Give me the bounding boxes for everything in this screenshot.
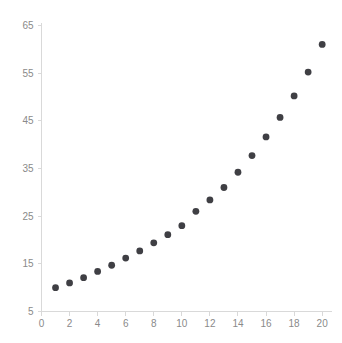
y-tick-label: 35 (22, 163, 34, 174)
x-tick-label: 12 (204, 318, 216, 329)
x-axis: 02468101214161820 (39, 312, 332, 329)
y-tick-label: 45 (22, 115, 34, 126)
data-point (178, 222, 185, 229)
x-tick-label: 6 (123, 318, 129, 329)
x-tick-label: 8 (151, 318, 157, 329)
y-tick-label: 55 (22, 68, 34, 79)
y-tick-label: 15 (22, 258, 34, 269)
x-tick-label: 0 (39, 318, 45, 329)
data-point (164, 231, 171, 238)
data-point (305, 69, 312, 76)
data-point (291, 93, 298, 100)
x-tick-label: 2 (67, 318, 73, 329)
y-tick-label: 65 (22, 20, 34, 31)
y-tick-label: 5 (28, 306, 34, 317)
chart-canvas: 5152535455565 02468101214161820 (0, 0, 342, 343)
y-tick-label: 25 (22, 211, 34, 222)
y-axis: 5152535455565 (22, 20, 41, 317)
data-series (52, 41, 325, 291)
x-tick-label: 4 (95, 318, 101, 329)
data-point (52, 284, 59, 291)
data-point (192, 208, 199, 215)
data-point (319, 41, 326, 48)
data-point (136, 248, 143, 255)
data-point (207, 197, 214, 204)
x-tick-label: 18 (289, 318, 301, 329)
x-tick-label: 16 (260, 318, 272, 329)
data-point (221, 184, 228, 191)
data-point (122, 255, 129, 262)
scatter-chart: 5152535455565 02468101214161820 (0, 0, 342, 343)
data-point (249, 152, 256, 159)
data-point (277, 114, 284, 121)
x-tick-label: 14 (232, 318, 244, 329)
data-point (263, 134, 270, 141)
data-point (108, 262, 115, 269)
data-point (150, 239, 157, 246)
x-tick-label: 20 (317, 318, 329, 329)
data-point (94, 268, 101, 275)
x-tick-label: 10 (176, 318, 188, 329)
data-point (235, 169, 242, 176)
data-point (80, 274, 87, 281)
data-point (66, 279, 73, 286)
